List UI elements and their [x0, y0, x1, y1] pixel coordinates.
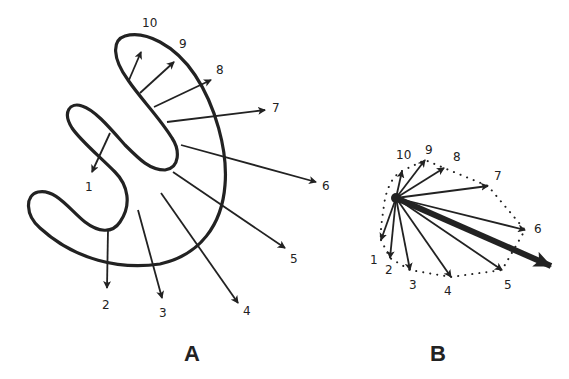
arrow-a-5	[173, 172, 285, 248]
arrow-a-6	[181, 145, 316, 182]
arrow-b-5	[396, 198, 502, 270]
arrow-b-7	[396, 186, 488, 198]
arrow-a-2	[107, 230, 108, 288]
label-b-10: 10	[396, 148, 411, 162]
label-a-9: 9	[179, 37, 187, 51]
arrow-a-3	[138, 210, 162, 298]
panel-label-a: A	[184, 341, 200, 366]
dotted-envelope	[381, 160, 525, 277]
label-a-5: 5	[290, 252, 298, 266]
label-a-1: 1	[85, 180, 93, 194]
label-b-4: 4	[444, 284, 452, 298]
arrow-a-4	[161, 193, 238, 303]
label-b-3: 3	[409, 278, 417, 292]
label-a-8: 8	[216, 63, 224, 77]
shape-outline	[28, 35, 225, 266]
origin-point	[391, 193, 401, 203]
label-b-7: 7	[494, 169, 502, 183]
arrow-a-10	[129, 52, 141, 80]
label-b-6: 6	[534, 222, 542, 236]
label-b-5: 5	[504, 278, 512, 292]
panel-label-b: B	[430, 341, 446, 366]
diagram: 1 2 3 4 5 6 7 8 9 10 A 1 2 3 4	[0, 0, 569, 379]
label-b-9: 9	[425, 143, 433, 157]
panel-a: 1 2 3 4 5 6 7 8 9 10 A	[28, 16, 329, 366]
label-a-10: 10	[142, 16, 157, 30]
label-a-2: 2	[102, 298, 110, 312]
label-b-1: 1	[370, 253, 378, 267]
label-a-4: 4	[243, 304, 251, 318]
label-b-2: 2	[385, 263, 393, 277]
label-a-7: 7	[272, 101, 280, 115]
label-a-6: 6	[322, 179, 330, 193]
label-b-8: 8	[453, 150, 461, 164]
arrow-a-8	[154, 80, 211, 107]
arrow-a-9	[140, 62, 174, 93]
label-a-3: 3	[159, 306, 167, 320]
panel-b: 1 2 3 4 5 6 7 8 9 10 B	[370, 143, 551, 366]
